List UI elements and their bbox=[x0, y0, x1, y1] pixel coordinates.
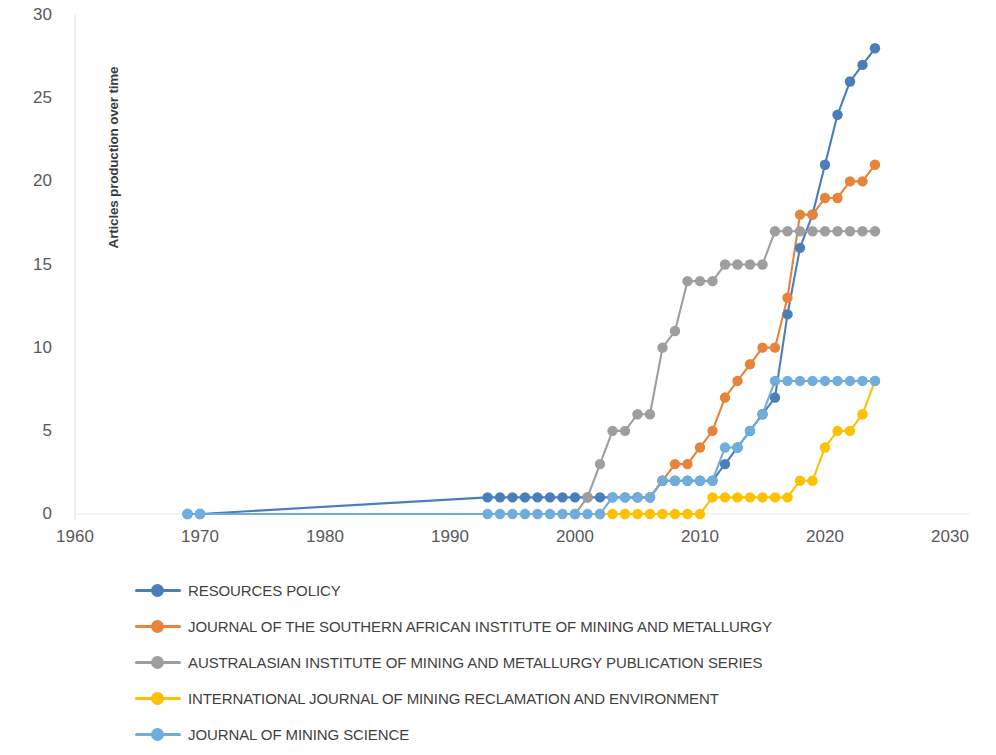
data-point bbox=[607, 509, 617, 519]
plot-area bbox=[0, 0, 996, 540]
data-point bbox=[807, 476, 817, 486]
data-point bbox=[695, 476, 705, 486]
data-point bbox=[495, 492, 505, 502]
data-point bbox=[782, 226, 792, 236]
data-point bbox=[807, 209, 817, 219]
data-point bbox=[820, 442, 830, 452]
data-point bbox=[795, 226, 805, 236]
legend-marker-icon bbox=[135, 581, 181, 599]
data-point bbox=[820, 160, 830, 170]
data-point bbox=[782, 376, 792, 386]
data-point bbox=[745, 492, 755, 502]
data-point bbox=[695, 509, 705, 519]
data-point bbox=[532, 509, 542, 519]
data-point bbox=[495, 509, 505, 519]
data-point bbox=[620, 509, 630, 519]
data-point bbox=[570, 509, 580, 519]
data-point bbox=[520, 492, 530, 502]
data-point bbox=[870, 376, 880, 386]
legend-dot-swatch bbox=[151, 620, 164, 633]
data-point bbox=[795, 243, 805, 253]
series-line-2 bbox=[575, 231, 875, 514]
data-point bbox=[782, 293, 792, 303]
data-point bbox=[870, 43, 880, 53]
data-point bbox=[870, 226, 880, 236]
data-point bbox=[820, 193, 830, 203]
data-point bbox=[857, 176, 867, 186]
data-point bbox=[732, 442, 742, 452]
data-point bbox=[807, 376, 817, 386]
data-point bbox=[832, 426, 842, 436]
data-point bbox=[557, 492, 567, 502]
data-point bbox=[832, 110, 842, 120]
data-point bbox=[607, 426, 617, 436]
data-point bbox=[720, 442, 730, 452]
data-point bbox=[182, 509, 192, 519]
data-point bbox=[532, 492, 542, 502]
legend-marker-icon bbox=[135, 617, 181, 635]
plot-svg bbox=[0, 0, 996, 540]
x-tick-label: 1970 bbox=[160, 528, 240, 545]
legend-item[interactable]: RESOURCES POLICY bbox=[135, 572, 996, 608]
data-point bbox=[507, 492, 517, 502]
data-point bbox=[832, 193, 842, 203]
data-point bbox=[632, 492, 642, 502]
data-point bbox=[745, 259, 755, 269]
data-point bbox=[770, 392, 780, 402]
data-point bbox=[670, 476, 680, 486]
data-point bbox=[582, 492, 592, 502]
data-point bbox=[795, 376, 805, 386]
legend-item[interactable]: AUSTRALASIAN INSTITUTE OF MINING AND MET… bbox=[135, 644, 996, 680]
legend-dot-swatch bbox=[151, 584, 164, 597]
data-point bbox=[795, 476, 805, 486]
data-point bbox=[507, 509, 517, 519]
data-point bbox=[570, 492, 580, 502]
data-point bbox=[820, 376, 830, 386]
data-point bbox=[745, 426, 755, 436]
data-point bbox=[682, 276, 692, 286]
legend-item-label: RESOURCES POLICY bbox=[188, 582, 341, 599]
x-tick-label: 2030 bbox=[910, 528, 990, 545]
data-point bbox=[482, 509, 492, 519]
data-point bbox=[720, 492, 730, 502]
data-point bbox=[857, 226, 867, 236]
x-tick-label: 1980 bbox=[285, 528, 365, 545]
legend-item[interactable]: INTERNATIONAL JOURNAL OF MINING RECLAMAT… bbox=[135, 680, 996, 716]
data-point bbox=[582, 509, 592, 519]
data-point bbox=[732, 492, 742, 502]
legend-item[interactable]: JOURNAL OF MINING SCIENCE bbox=[135, 716, 996, 752]
data-point bbox=[770, 342, 780, 352]
data-point bbox=[607, 492, 617, 502]
data-point bbox=[695, 442, 705, 452]
data-point bbox=[595, 509, 605, 519]
data-point bbox=[707, 276, 717, 286]
legend-dot-swatch bbox=[151, 656, 164, 669]
data-point bbox=[770, 376, 780, 386]
data-point bbox=[720, 459, 730, 469]
legend-item-label: JOURNAL OF MINING SCIENCE bbox=[188, 726, 409, 743]
data-point bbox=[657, 342, 667, 352]
legend-dot-swatch bbox=[151, 728, 164, 741]
data-point bbox=[707, 476, 717, 486]
legend-item[interactable]: JOURNAL OF THE SOUTHERN AFRICAN INSTITUT… bbox=[135, 608, 996, 644]
data-point bbox=[770, 226, 780, 236]
data-point bbox=[682, 509, 692, 519]
data-point bbox=[195, 509, 205, 519]
data-point bbox=[845, 226, 855, 236]
data-point bbox=[720, 392, 730, 402]
data-point bbox=[757, 409, 767, 419]
data-point bbox=[745, 359, 755, 369]
x-tick-label: 2010 bbox=[660, 528, 740, 545]
data-point bbox=[645, 492, 655, 502]
legend-dot-swatch bbox=[151, 692, 164, 705]
data-point bbox=[557, 509, 567, 519]
data-point bbox=[832, 226, 842, 236]
data-point bbox=[595, 459, 605, 469]
legend-marker-icon bbox=[135, 689, 181, 707]
data-point bbox=[657, 476, 667, 486]
data-point bbox=[845, 76, 855, 86]
data-point bbox=[645, 409, 655, 419]
x-tick-label: 2000 bbox=[535, 528, 615, 545]
data-point bbox=[757, 492, 767, 502]
data-point bbox=[845, 376, 855, 386]
